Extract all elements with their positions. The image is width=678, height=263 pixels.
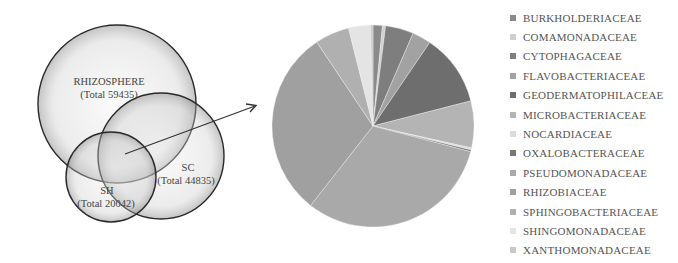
legend-label: XANTHOMONADACEAE [523,244,651,256]
legend-label: SHINGOMONADACEAE [523,225,646,237]
legend-item: OXALOBACTERACEAE [510,144,678,163]
legend-swatch [510,209,516,215]
legend-label: FLAVOBACTERIACEAE [523,70,645,82]
legend-item: GEODERMATOPHILACEAE [510,86,678,105]
legend-swatch [510,73,516,79]
legend-swatch [510,247,516,253]
legend-label: CYTOPHAGACEAE [523,50,622,62]
legend-label: RHIZOBIACEAE [523,186,607,198]
venn-total-sh: (Total 20042) [77,198,135,210]
venn-label-sc: SC [182,162,195,173]
venn-total-rhizosphere: (Total 59435) [80,89,138,101]
legend-label: MICROBACTERIACEAE [523,109,646,121]
legend-swatch [510,150,516,156]
legend-item: CYTOPHAGACEAE [510,47,678,66]
legend-swatch [510,53,516,59]
venn-total-sc: (Total 44835) [157,175,215,187]
venn-label-sh: SH [100,185,114,196]
legend-swatch [510,189,516,195]
legend-item: SHINGOMONADACEAE [510,221,678,240]
pie-chart [260,0,500,263]
legend-swatch [510,228,516,234]
legend-item: PSEUDOMONADACEAE [510,163,678,182]
legend-label: SPHINGOBACTERIACEAE [523,206,658,218]
legend-label: NOCARDIACEAE [523,128,612,140]
venn-diagram: RHIZOSPHERE (Total 59435) SC (Total 4483… [0,0,260,263]
legend-item: FLAVOBACTERIACEAE [510,66,678,85]
legend-swatch [510,112,516,118]
venn-label-rhizosphere: RHIZOSPHERE [73,76,144,87]
legend-swatch [510,92,516,98]
legend-label: OXALOBACTERACEAE [523,147,645,159]
legend-item: COMAMONADACEAE [510,27,678,46]
legend-label: COMAMONADACEAE [523,31,637,43]
legend-item: NOCARDIACEAE [510,124,678,143]
legend-item: MICROBACTERIACEAE [510,105,678,124]
legend: BURKHOLDERIACEAECOMAMONADACEAECYTOPHAGAC… [510,8,678,260]
legend-swatch [510,170,516,176]
legend-label: GEODERMATOPHILACEAE [523,89,663,101]
legend-label: BURKHOLDERIACEAE [523,12,642,24]
legend-item: RHIZOBIACEAE [510,183,678,202]
legend-label: PSEUDOMONADACEAE [523,167,647,179]
legend-item: BURKHOLDERIACEAE [510,8,678,27]
legend-swatch [510,15,516,21]
legend-swatch [510,34,516,40]
legend-swatch [510,131,516,137]
legend-item: XANTHOMONADACEAE [510,241,678,260]
legend-item: SPHINGOBACTERIACEAE [510,202,678,221]
